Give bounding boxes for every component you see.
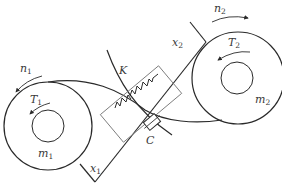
label-n2: n2	[214, 2, 226, 16]
label-t2: T2	[228, 36, 240, 50]
label-m1: m1	[38, 147, 53, 161]
pulley-m1-hub-circle	[32, 110, 64, 142]
housing-rect	[100, 66, 181, 142]
n1-rotation-arrow-icon	[16, 76, 42, 92]
label-x2: x2	[172, 36, 183, 50]
spring-lower-zigzag	[115, 95, 131, 108]
t2-rotation-arrow-icon	[218, 52, 250, 60]
label-x1: x1	[90, 162, 101, 176]
pulley-m2-hub-circle	[221, 62, 253, 94]
coupling-housing	[100, 66, 181, 142]
label-k: K	[118, 64, 128, 77]
spring-upper-zigzag	[130, 74, 158, 96]
n2-rotation-arrow-icon	[212, 17, 248, 22]
belt-span-x2-extension	[190, 22, 206, 42]
label-t1: T1	[30, 93, 42, 107]
label-n1: n1	[20, 62, 32, 76]
belt-drive-diagram: n1 T1 m1 x1 n2 T2 m2 x2 K C	[0, 0, 282, 188]
label-m2: m2	[255, 93, 270, 107]
damper-c	[141, 112, 163, 133]
label-c: C	[146, 134, 155, 147]
